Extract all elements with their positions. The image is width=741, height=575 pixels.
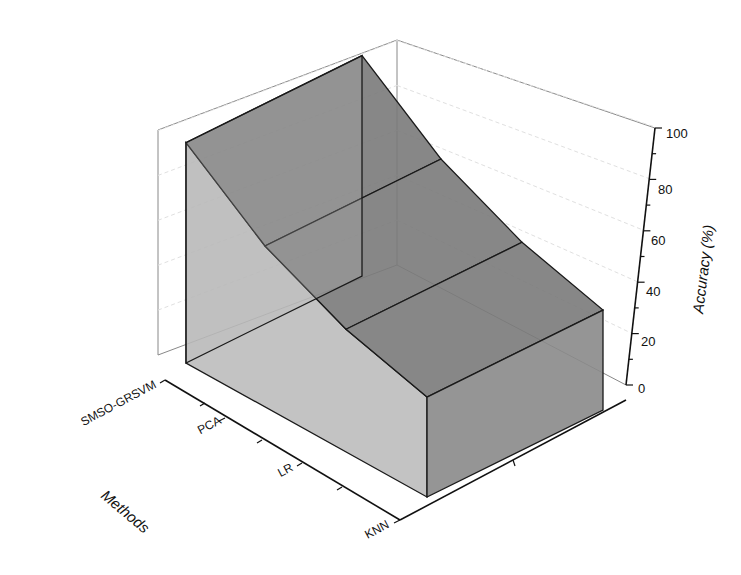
category-lr: LR [275, 460, 295, 480]
methods-axis-title: Methods [98, 486, 153, 536]
3d-area-chart: 0 20 40 60 80 100 Accuracy (%) SMSO-GRSV… [0, 0, 741, 575]
ztick-40: 40 [646, 284, 660, 299]
ztick-60: 60 [651, 233, 665, 248]
ztick-20: 20 [641, 334, 655, 349]
ztick-100: 100 [666, 126, 688, 141]
ztick-0: 0 [638, 381, 645, 396]
accuracy-axis-title: Accuracy (%) [689, 224, 717, 316]
accuracy-axis: 0 20 40 60 80 100 Accuracy (%) [626, 126, 717, 396]
category-knn: KNN [362, 517, 391, 541]
ztick-80: 80 [658, 182, 672, 197]
accuracy-surface [186, 56, 603, 497]
category-smso-grsvm: SMSO-GRSVM [78, 377, 158, 428]
category-pca: PCA [195, 413, 223, 437]
